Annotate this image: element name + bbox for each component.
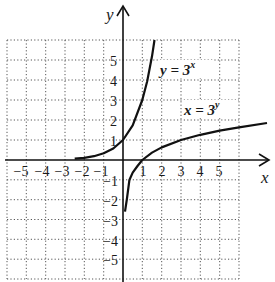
exp-curve-label-exponent: x <box>189 59 195 70</box>
function-graph: y x −5 −4 −3 −2 −1 1 2 3 4 5 5 4 3 2 1 −… <box>0 0 275 282</box>
exp-curve-label: y = 3x <box>158 59 195 78</box>
y-tick-labels: 5 4 3 2 1 −1 −2 −3 −4 −5 <box>103 54 118 268</box>
y-tick-label: −5 <box>103 253 118 268</box>
y-tick-label: 5 <box>110 54 117 69</box>
exp-curve-label-base: y = 3 <box>158 62 191 78</box>
x-tick-label: 3 <box>178 164 185 179</box>
log-curve-label-exponent: y <box>214 99 220 110</box>
y-axis-label: y <box>104 5 114 24</box>
x-tick-label: 5 <box>216 164 223 179</box>
log-curve-label-base: x = 3 <box>183 102 216 118</box>
y-tick-label: −3 <box>103 214 118 229</box>
x-tick-label: −2 <box>75 164 90 179</box>
axes <box>5 6 269 282</box>
log-curve-label: x = 3y <box>183 99 220 118</box>
y-tick-label: −2 <box>103 194 118 209</box>
x-tick-label: 2 <box>159 164 166 179</box>
y-tick-label: 3 <box>110 94 117 109</box>
x-tick-labels: −5 −4 −3 −2 −1 1 2 3 4 5 <box>14 164 223 179</box>
y-tick-label: 4 <box>110 74 117 89</box>
y-tick-label: −1 <box>103 174 118 189</box>
x-tick-label: −4 <box>35 164 50 179</box>
x-axis-label: x <box>260 168 269 187</box>
y-tick-label: 2 <box>110 114 117 129</box>
x-tick-label: −5 <box>14 164 29 179</box>
x-tick-label: −3 <box>55 164 70 179</box>
x-tick-label: 1 <box>140 164 147 179</box>
y-tick-label: −4 <box>103 234 118 249</box>
x-tick-label: 4 <box>197 164 204 179</box>
y-tick-label: 1 <box>110 134 117 149</box>
